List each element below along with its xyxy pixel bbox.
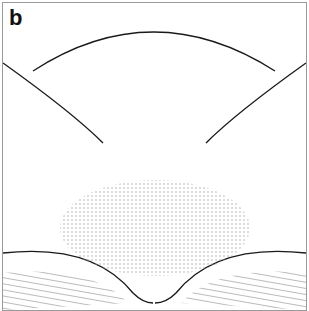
- right-contour: [206, 63, 306, 143]
- base-texture-right: [181, 272, 306, 310]
- base-texture-left: [3, 272, 128, 310]
- left-contour: [3, 63, 103, 143]
- upper-contour: [33, 32, 275, 71]
- shaded-region: [60, 180, 250, 276]
- schematic-illustration: [3, 3, 306, 310]
- figure-panel: b: [2, 2, 307, 311]
- panel-label: b: [9, 5, 22, 31]
